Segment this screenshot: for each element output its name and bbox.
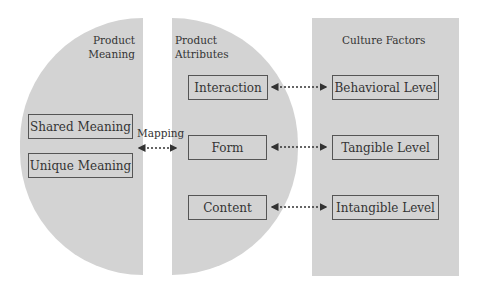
connector-arrows: [0, 0, 478, 292]
